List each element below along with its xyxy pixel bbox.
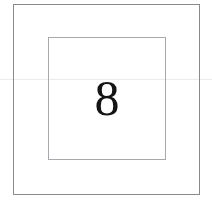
figure-canvas: 8 [0,0,212,206]
numeral-eight: 8 [48,37,166,160]
